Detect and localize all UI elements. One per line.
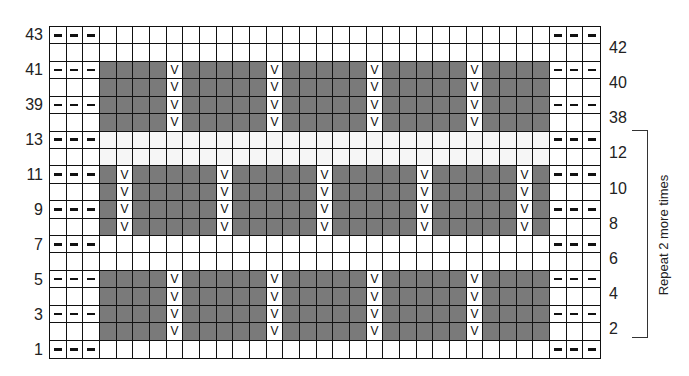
chart-cell xyxy=(100,97,117,114)
chart-cell xyxy=(400,44,417,61)
chart-cell xyxy=(467,219,484,236)
chart-cell xyxy=(300,114,317,131)
slip-stitch-icon: V xyxy=(420,221,428,233)
chart-cell xyxy=(500,132,517,149)
chart-cell xyxy=(200,184,217,201)
chart-cell xyxy=(400,27,417,44)
chart-cell xyxy=(350,166,367,183)
purl-dash-icon xyxy=(570,313,578,316)
chart-cell xyxy=(333,323,350,340)
chart-cell xyxy=(433,184,450,201)
chart-cell xyxy=(500,271,517,288)
chart-cell: V xyxy=(267,271,284,288)
chart-cell xyxy=(483,323,500,340)
chart-cell xyxy=(383,219,400,236)
chart-cell xyxy=(350,27,367,44)
repeat-bracket xyxy=(632,130,648,338)
chart-cell xyxy=(200,219,217,236)
chart-cell xyxy=(517,341,534,358)
chart-cell xyxy=(483,114,500,131)
chart-cell xyxy=(83,114,100,131)
chart-cell: V xyxy=(367,79,384,96)
chart-cell xyxy=(217,44,234,61)
chart-cell xyxy=(133,79,150,96)
chart-cell xyxy=(183,306,200,323)
chart-cell xyxy=(83,149,100,166)
chart-cell xyxy=(117,132,134,149)
chart-cell xyxy=(583,288,600,305)
chart-cell xyxy=(167,236,184,253)
chart-cell xyxy=(283,236,300,253)
chart-cell xyxy=(400,306,417,323)
chart-cell xyxy=(133,184,150,201)
slip-stitch-icon: V xyxy=(520,169,528,181)
chart-cell xyxy=(300,62,317,79)
chart-cell xyxy=(317,288,334,305)
chart-cell xyxy=(117,306,134,323)
chart-cell xyxy=(150,323,167,340)
chart-cell xyxy=(233,114,250,131)
chart-cell xyxy=(433,271,450,288)
chart-cell xyxy=(133,62,150,79)
chart-cell xyxy=(117,114,134,131)
slip-stitch-icon: V xyxy=(270,116,278,128)
chart-cell xyxy=(333,271,350,288)
slip-stitch-icon: V xyxy=(320,221,328,233)
chart-cell xyxy=(217,253,234,270)
chart-cell: V xyxy=(367,288,384,305)
chart-cell xyxy=(567,236,584,253)
chart-cell xyxy=(517,271,534,288)
chart-cell xyxy=(100,114,117,131)
chart-cell xyxy=(400,62,417,79)
chart-cell xyxy=(133,271,150,288)
purl-dash-icon xyxy=(87,208,95,211)
chart-cell xyxy=(300,341,317,358)
chart-cell xyxy=(450,62,467,79)
chart-cell xyxy=(417,132,434,149)
slip-stitch-icon: V xyxy=(270,273,278,285)
purl-dash-icon xyxy=(588,278,596,281)
chart-cell xyxy=(483,201,500,218)
repeat-note: Repeat 2 more times xyxy=(656,175,671,296)
row-label-left: 5 xyxy=(34,272,43,288)
chart-cell xyxy=(267,44,284,61)
chart-cell xyxy=(283,184,300,201)
chart-cell xyxy=(583,114,600,131)
chart-cell: V xyxy=(167,97,184,114)
chart-cell xyxy=(233,288,250,305)
chart-cell xyxy=(383,236,400,253)
chart-cell xyxy=(183,62,200,79)
chart-cell xyxy=(67,323,84,340)
chart-cell xyxy=(100,62,117,79)
purl-dash-icon xyxy=(554,278,562,281)
chart-cell xyxy=(567,219,584,236)
chart-cell xyxy=(433,219,450,236)
chart-cell xyxy=(250,288,267,305)
chart-cell xyxy=(500,166,517,183)
chart-cell xyxy=(317,114,334,131)
chart-cell xyxy=(200,114,217,131)
chart-cell: V xyxy=(167,323,184,340)
chart-cell: V xyxy=(367,306,384,323)
row-label-left: 41 xyxy=(25,62,43,78)
chart-cell xyxy=(433,79,450,96)
chart-cell xyxy=(183,219,200,236)
chart-cell xyxy=(300,219,317,236)
chart-cell xyxy=(50,236,67,253)
chart-cell xyxy=(300,27,317,44)
chart-cell xyxy=(50,132,67,149)
chart-cell xyxy=(367,201,384,218)
chart-cell xyxy=(417,341,434,358)
chart-cell xyxy=(467,236,484,253)
chart-cell xyxy=(583,44,600,61)
chart-cell xyxy=(183,44,200,61)
chart-cell xyxy=(217,62,234,79)
chart-cell xyxy=(267,219,284,236)
chart-cell xyxy=(433,306,450,323)
chart-cell xyxy=(583,149,600,166)
chart-cell xyxy=(50,323,67,340)
slip-stitch-icon: V xyxy=(170,273,178,285)
slip-stitch-icon: V xyxy=(120,203,128,215)
chart-cell xyxy=(500,114,517,131)
chart-cell xyxy=(100,44,117,61)
